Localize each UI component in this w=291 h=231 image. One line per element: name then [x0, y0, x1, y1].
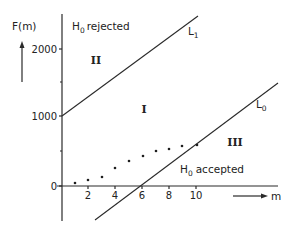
y-tick-0: 0 — [51, 181, 57, 192]
x-tick-6: 6 — [139, 190, 145, 201]
line-L0-label: L0 — [256, 98, 267, 113]
sequential-test-diagram: F(m) 2000 1000 0 2 4 6 8 10 m L1 L0 H0re… — [0, 0, 291, 231]
y-tick-1000: 1000 — [32, 111, 57, 122]
region-III-label: III — [227, 136, 242, 149]
y-axis-arrow-icon — [20, 41, 25, 82]
region-II-label: II — [91, 54, 101, 67]
h0-accepted-label: H0accepted — [180, 163, 244, 178]
h0-rejected-label: H0rejected — [72, 20, 130, 35]
x-tick-2: 2 — [85, 190, 91, 201]
region-I-label: I — [141, 103, 146, 116]
line-L1-label: L1 — [188, 25, 199, 40]
line-L0 — [95, 83, 278, 220]
x-tick-8: 8 — [166, 190, 172, 201]
x-axis-arrow-icon — [233, 194, 268, 199]
y-tick-2000: 2000 — [32, 44, 57, 55]
x-tick-10: 10 — [190, 190, 203, 201]
x-tick-4: 4 — [112, 190, 118, 201]
x-axis-label: m — [271, 190, 281, 202]
y-axis-label: F(m) — [12, 20, 36, 32]
